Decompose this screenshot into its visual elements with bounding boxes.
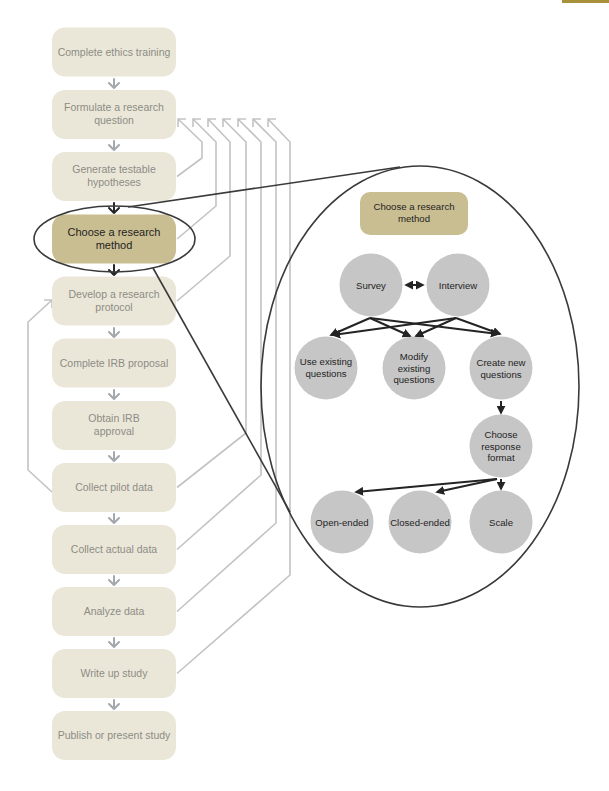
step-obtain-irb[interactable]: Obtain IRBapproval [52,401,176,450]
down-arrow-icon [109,328,119,337]
feedback-line-write-up [177,119,290,674]
svg-text:Survey: Survey [356,280,386,291]
down-arrow-icon [109,141,119,150]
feedback-line-hypotheses [177,119,202,177]
svg-text:Write up study: Write up study [81,667,149,679]
node-create-new[interactable]: Create newquestions [470,337,533,400]
research-process-diagram: Complete ethics training Formulate a res… [0,0,609,791]
feedback-line-collect-pilot [177,119,246,488]
down-arrow-icon [109,265,119,275]
svg-text:Collect pilot data: Collect pilot data [75,481,153,493]
svg-text:Complete IRB proposal: Complete IRB proposal [60,357,169,369]
svg-text:Collect actual data: Collect actual data [71,543,158,555]
svg-text:Use existingquestions: Use existingquestions [300,356,352,379]
svg-text:Create newquestions: Create newquestions [476,357,525,380]
step-choose-method[interactable]: Choose a researchmethod [52,215,176,264]
node-interview[interactable]: Interview [427,254,490,317]
feedback-line-develop-protocol [177,119,230,301]
pilot-loop-line [28,300,52,492]
node-closed-ended[interactable]: Closed-ended [389,491,452,554]
down-arrow-icon [109,514,119,523]
step-complete-ethics[interactable]: Complete ethics training [52,28,176,77]
svg-text:Publish or present study: Publish or present study [58,729,171,741]
node-scale[interactable]: Scale [470,491,533,554]
step-generate-hypotheses[interactable]: Generate testablehypotheses [52,152,176,201]
svg-text:Analyze data: Analyze data [84,605,145,617]
down-arrow-icon [109,390,119,399]
arrow-format-open [356,479,497,492]
down-arrow-icon [109,638,119,647]
step-develop-protocol[interactable]: Develop a researchprotocol [52,277,176,326]
svg-text:Scale: Scale [489,517,513,528]
step-complete-irb[interactable]: Complete IRB proposal [52,339,176,388]
down-arrow-icon [109,452,119,461]
svg-text:Obtain IRBapproval: Obtain IRBapproval [88,412,139,437]
down-arrow-icon [109,203,119,213]
node-modify-existing[interactable]: Modifyexistingquestions [383,337,446,400]
down-arrow-icon [109,700,119,709]
detail-title-box: Choose a researchmethod [360,192,468,235]
svg-text:Interview: Interview [439,280,477,291]
node-survey[interactable]: Survey [340,254,403,317]
step-write-up[interactable]: Write up study [52,649,176,698]
node-open-ended[interactable]: Open-ended [311,491,374,554]
step-formulate-question[interactable]: Formulate a researchquestion [52,90,176,139]
down-arrow-icon [109,79,119,88]
step-collect-pilot[interactable]: Collect pilot data [52,463,176,512]
svg-text:Complete ethics training: Complete ethics training [58,46,171,58]
down-arrow-icon [109,576,119,585]
svg-text:Closed-ended: Closed-ended [390,517,450,528]
step-analyze[interactable]: Analyze data [52,587,176,636]
step-publish[interactable]: Publish or present study [52,711,176,760]
node-use-existing[interactable]: Use existingquestions [295,337,358,400]
svg-text:Open-ended: Open-ended [315,517,368,528]
step-collect-actual[interactable]: Collect actual data [52,525,176,574]
node-choose-format[interactable]: Chooseresponseformat [470,415,533,478]
